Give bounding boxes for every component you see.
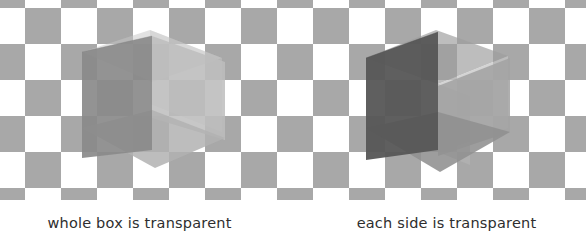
cubes-layer	[0, 0, 586, 200]
caption-each-side: each side is transparent	[293, 200, 586, 246]
transparency-comparison-figure: whole box is transparent each side is tr…	[0, 0, 586, 246]
whole-box-transparent-cube	[82, 30, 225, 168]
left-face	[82, 36, 152, 158]
each-side-transparent-cube	[366, 30, 510, 172]
caption-row: whole box is transparent each side is tr…	[0, 200, 586, 246]
caption-whole-box: whole box is transparent	[0, 200, 293, 246]
left-face	[366, 32, 438, 160]
